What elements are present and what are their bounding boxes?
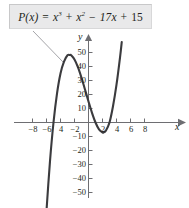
y-axis-arrowhead	[85, 34, 92, 41]
y-tick-label--50: −50	[66, 187, 86, 197]
callout-leader-line	[33, 31, 63, 62]
y-tick-label-50: 50	[70, 47, 86, 57]
y-tick-label--30: −30	[66, 159, 86, 169]
equation-plus-2: +	[120, 11, 129, 23]
equation-constant: 15	[131, 11, 143, 23]
y-tick-label--20: −20	[66, 145, 86, 155]
x-tick-label--6: −6	[39, 124, 55, 134]
equation-term3: 17x	[100, 11, 117, 23]
y-tick-label-30: 30	[70, 75, 86, 85]
x-tick-label-4: 4	[111, 124, 123, 134]
y-tick-label-20: 20	[70, 89, 86, 99]
graph-canvas	[0, 0, 189, 208]
y-tick-label--40: −40	[66, 173, 86, 183]
x-tick-label-2: 2	[97, 124, 109, 134]
y-tick-label-40: 40	[70, 61, 86, 71]
equation-plus-1: +	[65, 11, 74, 23]
equation-term2-exponent: 2	[82, 10, 86, 18]
equation-text: P(x) = x3 + x2 − 17x + 15	[18, 11, 143, 23]
x-axis-label: x	[175, 121, 179, 132]
equation-equals: =	[41, 11, 50, 23]
y-axis-label: y	[78, 31, 82, 42]
y-tick-label--10: −10	[66, 131, 86, 141]
y-tick-label-10: 10	[70, 103, 86, 113]
equation-term1-exponent: 3	[58, 10, 62, 18]
x-tick-label-6: 6	[125, 124, 137, 134]
equation-minus: −	[88, 11, 97, 23]
equation-callout-box: P(x) = x3 + x2 − 17x + 15	[9, 4, 152, 29]
polynomial-graph-figure: P(x) = x3 + x2 − 17x + 15 y x −8 −6 4 −2…	[0, 0, 189, 208]
y-axis	[85, 34, 93, 198]
equation-function: P(x)	[18, 11, 38, 23]
x-tick-label-8: 8	[139, 124, 151, 134]
